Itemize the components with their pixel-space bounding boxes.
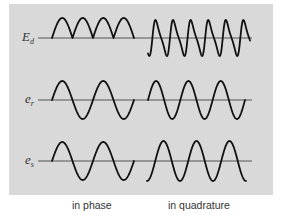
caption-in-phase: in phase <box>72 199 112 211</box>
ed-in-phase-rectified-wave <box>52 18 134 38</box>
caption-in-quadrature: in quadrature <box>168 199 230 211</box>
label-es: es <box>25 153 34 169</box>
label-er: er <box>25 92 34 108</box>
waveform-plot <box>0 0 281 216</box>
label-ed: Ed <box>22 30 34 46</box>
